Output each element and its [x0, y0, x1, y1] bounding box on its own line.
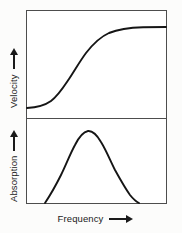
- plot-frame: [26, 10, 167, 204]
- dispersion-absorption-figure: Velocity Absorption Frequency: [0, 0, 182, 233]
- arrow-up-icon: [10, 47, 18, 69]
- panel-divider: [26, 118, 167, 119]
- x-axis-label-frequency-text: Frequency: [58, 214, 104, 224]
- x-axis-label-frequency: Frequency: [26, 212, 167, 226]
- arrow-up-icon: [10, 129, 18, 151]
- y-axis-label-absorption: Absorption: [6, 92, 22, 202]
- arrow-right-icon: [109, 215, 135, 223]
- y-axis-label-absorption-text: Absorption: [9, 156, 19, 202]
